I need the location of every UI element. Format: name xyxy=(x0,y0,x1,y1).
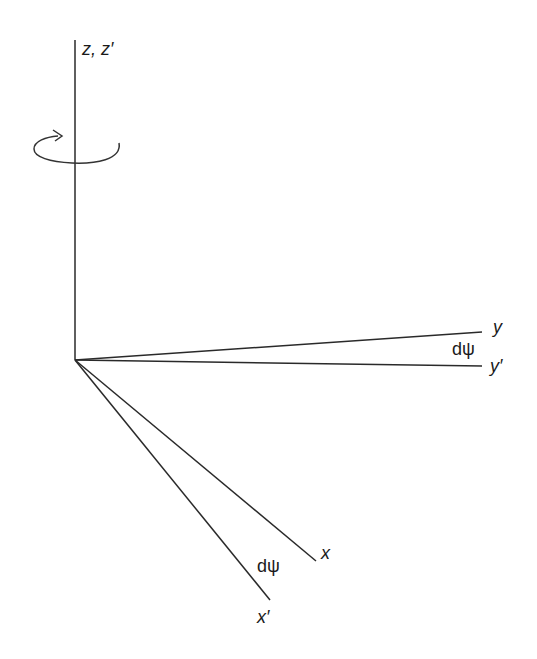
x-prime-axis-label: x′ xyxy=(257,608,269,626)
x-prime-axis-line xyxy=(75,360,270,600)
y-axis-line xyxy=(75,332,482,360)
z-axis-label: z, z′ xyxy=(82,40,113,58)
y-prime-axis-label: y′ xyxy=(490,357,502,375)
x-axis-line xyxy=(75,360,316,561)
y-angle-label: dψ xyxy=(452,340,475,358)
rotation-arrow-icon xyxy=(34,130,119,163)
y-axis-label: y xyxy=(493,318,502,336)
x-axis-label: x xyxy=(321,544,330,562)
x-angle-label: dψ xyxy=(257,557,280,575)
y-prime-axis-line xyxy=(75,360,482,366)
